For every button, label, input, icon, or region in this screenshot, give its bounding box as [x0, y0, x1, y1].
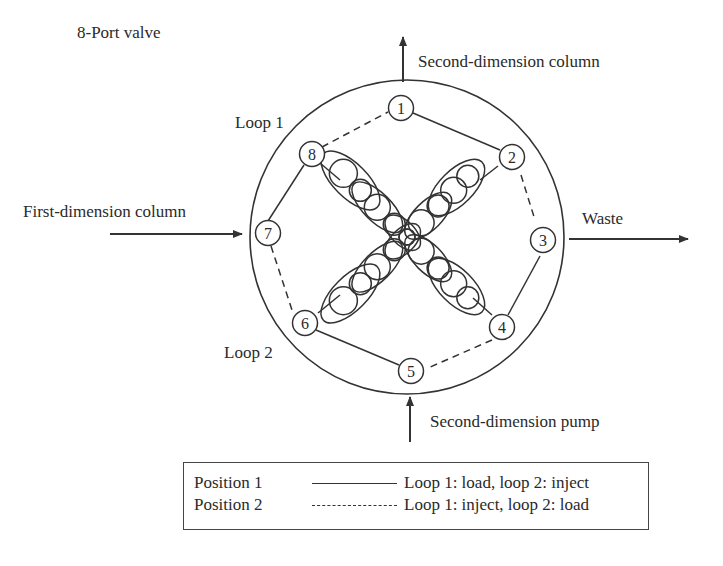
port-4: 4: [490, 315, 515, 340]
legend-solid-line-icon: [312, 483, 397, 484]
port-7: 7: [256, 221, 281, 246]
left-inlet-label: First-dimension column: [23, 202, 186, 221]
svg-text:7: 7: [264, 225, 272, 242]
right-outlet-label: Waste: [582, 209, 623, 228]
port-6: 6: [293, 311, 318, 336]
svg-text:5: 5: [407, 363, 415, 380]
port-3: 3: [531, 228, 556, 253]
loop1-label: Loop 1: [235, 113, 284, 132]
bottom-inlet-label: Second-dimension pump: [430, 412, 600, 431]
legend-position2-name: Position 2: [194, 495, 263, 515]
svg-text:3: 3: [539, 232, 547, 249]
port-5: 5: [399, 359, 424, 384]
top-outlet-label: Second-dimension column: [418, 52, 600, 71]
port-2: 2: [500, 145, 525, 170]
legend-box: Position 1 Loop 1: load, loop 2: inject …: [183, 462, 649, 530]
loop2-label: Loop 2: [224, 343, 273, 362]
svg-text:4: 4: [498, 319, 506, 336]
loop2-coil: [312, 150, 494, 332]
legend-position1-description: Loop 1: load, loop 2: inject: [404, 473, 589, 493]
port-1: 1: [389, 96, 414, 121]
svg-text:1: 1: [397, 100, 405, 117]
svg-text:8: 8: [308, 146, 316, 163]
svg-text:2: 2: [508, 149, 516, 166]
legend-position2-description: Loop 1: inject, loop 2: load: [404, 495, 589, 515]
diagram-title: 8-Port valve: [77, 23, 161, 42]
legend-position1-name: Position 1: [194, 473, 263, 493]
svg-text:6: 6: [301, 315, 309, 332]
port-8: 8: [300, 142, 325, 167]
legend-dashed-line-icon: [312, 505, 397, 506]
